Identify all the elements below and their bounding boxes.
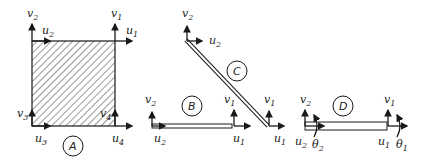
label-v1-a: v1 (111, 7, 122, 22)
element-label-b: B (188, 100, 196, 113)
label-u1-b: u1 (233, 132, 245, 147)
label-v1-c: v1 (264, 93, 275, 108)
element-label-a: A (68, 140, 77, 153)
label-u3-a: u3 (35, 132, 47, 147)
label-u1-c: u1 (274, 132, 286, 147)
label-u4-a: u4 (112, 132, 124, 147)
label-theta2-d: θ2 (312, 138, 324, 153)
element-label-d: D (339, 100, 347, 113)
element-label-c: C (233, 65, 241, 78)
label-v1-d: v1 (384, 93, 395, 108)
label-v2-a: v2 (27, 7, 38, 22)
label-v2-c: v2 (182, 7, 193, 22)
label-u1-d: u1 (378, 135, 390, 150)
label-v3-a: v3 (17, 107, 28, 122)
element-d: v2 u2 θ2 v1 u1 θ1 D (295, 93, 408, 153)
label-u2-a: u2 (42, 24, 54, 39)
element-a: v2 u2 v1 u1 v3 u3 v4 u4 A (17, 7, 138, 156)
label-u2-b: u2 (154, 132, 166, 147)
label-v2-b: v2 (145, 93, 156, 108)
finite-element-diagram: v2 u2 v1 u1 v3 u3 v4 u4 A v2 u2 v1 u1 B … (0, 0, 427, 166)
label-u2-c: u2 (209, 34, 221, 49)
label-u2-d: u2 (295, 135, 307, 150)
element-b: v2 u2 v1 u1 B (145, 93, 250, 147)
label-theta1-d: θ1 (396, 138, 408, 153)
label-u1-a: u1 (126, 24, 138, 39)
label-v1-b: v1 (224, 93, 235, 108)
label-v2-d: v2 (300, 93, 311, 108)
